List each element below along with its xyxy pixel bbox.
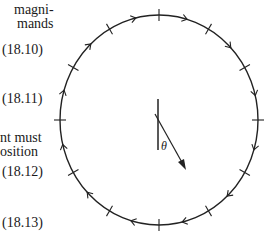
vector-arrowhead-icon xyxy=(178,159,186,170)
vector-line xyxy=(155,114,184,166)
angle-label-theta: θ xyxy=(161,139,167,154)
circular-path-figure xyxy=(0,0,269,239)
